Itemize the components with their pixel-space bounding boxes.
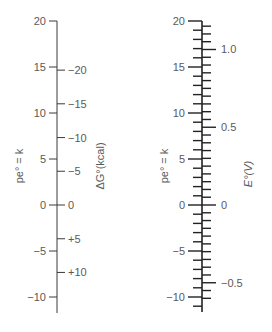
left-pe-axis-label: pe° = k <box>13 148 25 183</box>
pe-tick-label: 10 <box>173 107 185 119</box>
dg-tick-label: 0 <box>68 199 74 211</box>
volt-tick-label: 0.5 <box>221 121 236 133</box>
nomogram-svg: 20151050−5−10−20−15−10−50+5+10 20151050−… <box>0 0 272 332</box>
dg-tick-label: −15 <box>68 98 87 110</box>
e-volts-axis-label: E°(V) <box>242 160 254 187</box>
right-pe-axis-label: pe° = k <box>158 148 170 183</box>
volt-tick-label: 1.0 <box>221 43 236 55</box>
volt-tick-label: −0.5 <box>221 277 243 289</box>
delta-g-axis-label: ΔG°(kcal) <box>94 142 106 189</box>
nomogram-figure: 20151050−5−10−20−15−10−50+5+10 20151050−… <box>0 0 272 332</box>
pe-tick-label: 5 <box>179 153 185 165</box>
left-scale-pe-dG: 20151050−5−10−20−15−10−50+5+10 <box>27 15 86 313</box>
dg-tick-label: +10 <box>68 266 87 278</box>
pe-tick-label: 20 <box>34 15 46 27</box>
pe-tick-label: 0 <box>179 199 185 211</box>
pe-tick-label: −5 <box>172 245 185 257</box>
dg-tick-label: +5 <box>68 233 81 245</box>
volt-tick-label: 0 <box>221 199 227 211</box>
pe-tick-label: 0 <box>40 199 46 211</box>
pe-tick-label: −10 <box>166 291 185 303</box>
pe-tick-label: 15 <box>34 61 46 73</box>
pe-tick-label: −10 <box>27 291 46 303</box>
dg-tick-label: −10 <box>68 132 87 144</box>
pe-tick-label: 20 <box>173 15 185 27</box>
pe-tick-label: 15 <box>173 61 185 73</box>
dg-tick-label: −5 <box>68 165 81 177</box>
dg-tick-label: −20 <box>68 64 87 76</box>
right-scale-pe-E: 20151050−5−101.00.50−0.5 <box>166 15 242 312</box>
pe-tick-label: 10 <box>34 107 46 119</box>
pe-tick-label: −5 <box>33 245 46 257</box>
pe-tick-label: 5 <box>40 153 46 165</box>
